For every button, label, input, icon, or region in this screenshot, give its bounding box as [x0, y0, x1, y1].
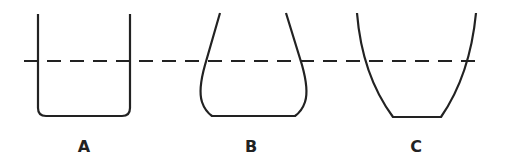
label-a: A	[78, 137, 90, 156]
container-b	[201, 13, 307, 116]
container-a	[38, 14, 130, 116]
label-b: B	[245, 137, 257, 156]
label-c: C	[410, 137, 422, 156]
container-c	[357, 13, 476, 117]
